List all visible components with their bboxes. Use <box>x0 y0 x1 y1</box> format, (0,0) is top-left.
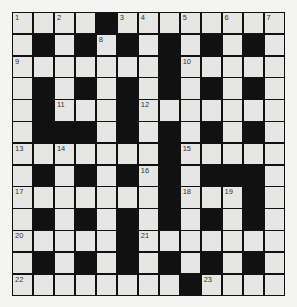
grid-cell[interactable] <box>97 275 116 295</box>
grid-cell[interactable] <box>97 231 116 251</box>
grid-cell[interactable] <box>139 253 158 273</box>
grid-cell[interactable] <box>34 231 53 251</box>
grid-cell[interactable] <box>97 57 116 77</box>
grid-cell[interactable] <box>244 13 263 33</box>
grid-cell[interactable] <box>181 78 200 98</box>
grid-cell[interactable]: 19 <box>223 187 242 207</box>
grid-cell[interactable] <box>202 144 221 164</box>
grid-cell[interactable] <box>34 57 53 77</box>
grid-cell[interactable] <box>160 13 179 33</box>
grid-cell[interactable] <box>223 57 242 77</box>
grid-cell[interactable] <box>13 78 32 98</box>
grid-cell[interactable] <box>55 275 74 295</box>
grid-cell[interactable] <box>265 231 284 251</box>
grid-cell[interactable]: 2 <box>55 13 74 33</box>
grid-cell[interactable] <box>265 166 284 186</box>
grid-cell[interactable] <box>223 253 242 273</box>
grid-cell[interactable] <box>76 13 95 33</box>
grid-cell[interactable] <box>76 187 95 207</box>
grid-cell[interactable] <box>265 78 284 98</box>
grid-cell[interactable] <box>265 209 284 229</box>
grid-cell[interactable]: 8 <box>97 35 116 55</box>
grid-cell[interactable] <box>13 100 32 120</box>
grid-cell[interactable] <box>160 100 179 120</box>
grid-cell[interactable] <box>13 253 32 273</box>
grid-cell[interactable] <box>244 275 263 295</box>
grid-cell[interactable] <box>223 275 242 295</box>
grid-cell[interactable] <box>265 275 284 295</box>
grid-cell[interactable] <box>139 209 158 229</box>
grid-cell[interactable] <box>223 35 242 55</box>
grid-cell[interactable] <box>244 144 263 164</box>
grid-cell[interactable] <box>55 253 74 273</box>
grid-cell[interactable] <box>223 78 242 98</box>
grid-cell[interactable] <box>160 231 179 251</box>
grid-cell[interactable] <box>118 187 137 207</box>
grid-cell[interactable]: 4 <box>139 13 158 33</box>
grid-cell[interactable] <box>97 253 116 273</box>
grid-cell[interactable]: 22 <box>13 275 32 295</box>
grid-cell[interactable] <box>34 144 53 164</box>
grid-cell[interactable] <box>97 209 116 229</box>
grid-cell[interactable] <box>223 144 242 164</box>
grid-cell[interactable] <box>181 100 200 120</box>
grid-cell[interactable]: 5 <box>181 13 200 33</box>
grid-cell[interactable] <box>265 187 284 207</box>
grid-cell[interactable] <box>55 187 74 207</box>
grid-cell[interactable]: 12 <box>139 100 158 120</box>
grid-cell[interactable] <box>265 253 284 273</box>
grid-cell[interactable] <box>118 57 137 77</box>
grid-cell[interactable]: 17 <box>13 187 32 207</box>
grid-cell[interactable] <box>265 57 284 77</box>
grid-cell[interactable] <box>55 78 74 98</box>
grid-cell[interactable]: 6 <box>223 13 242 33</box>
grid-cell[interactable] <box>139 78 158 98</box>
grid-cell[interactable] <box>139 35 158 55</box>
grid-cell[interactable] <box>34 275 53 295</box>
grid-cell[interactable] <box>118 275 137 295</box>
grid-cell[interactable] <box>118 144 137 164</box>
grid-cell[interactable]: 11 <box>55 100 74 120</box>
grid-cell[interactable]: 10 <box>181 57 200 77</box>
grid-cell[interactable] <box>13 35 32 55</box>
grid-cell[interactable]: 13 <box>13 144 32 164</box>
grid-cell[interactable] <box>139 122 158 142</box>
grid-cell[interactable]: 14 <box>55 144 74 164</box>
grid-cell[interactable] <box>223 231 242 251</box>
grid-cell[interactable] <box>76 275 95 295</box>
grid-cell[interactable]: 9 <box>13 57 32 77</box>
grid-cell[interactable] <box>202 13 221 33</box>
grid-cell[interactable] <box>55 166 74 186</box>
grid-cell[interactable] <box>76 57 95 77</box>
grid-cell[interactable]: 15 <box>181 144 200 164</box>
grid-cell[interactable] <box>76 100 95 120</box>
grid-cell[interactable] <box>139 187 158 207</box>
grid-cell[interactable] <box>244 100 263 120</box>
grid-cell[interactable] <box>223 100 242 120</box>
grid-cell[interactable] <box>244 231 263 251</box>
grid-cell[interactable]: 23 <box>202 275 221 295</box>
grid-cell[interactable] <box>223 122 242 142</box>
grid-cell[interactable] <box>97 166 116 186</box>
grid-cell[interactable] <box>13 122 32 142</box>
grid-cell[interactable] <box>181 253 200 273</box>
grid-cell[interactable] <box>202 231 221 251</box>
grid-cell[interactable] <box>181 35 200 55</box>
grid-cell[interactable] <box>139 57 158 77</box>
grid-cell[interactable] <box>181 231 200 251</box>
grid-cell[interactable] <box>13 166 32 186</box>
grid-cell[interactable] <box>97 187 116 207</box>
grid-cell[interactable] <box>160 275 179 295</box>
grid-cell[interactable] <box>76 231 95 251</box>
grid-cell[interactable]: 16 <box>139 166 158 186</box>
grid-cell[interactable] <box>223 209 242 229</box>
grid-cell[interactable]: 20 <box>13 231 32 251</box>
grid-cell[interactable] <box>181 209 200 229</box>
grid-cell[interactable] <box>34 13 53 33</box>
grid-cell[interactable] <box>265 100 284 120</box>
grid-cell[interactable] <box>265 144 284 164</box>
grid-cell[interactable] <box>55 231 74 251</box>
grid-cell[interactable] <box>265 122 284 142</box>
grid-cell[interactable] <box>202 57 221 77</box>
grid-cell[interactable]: 1 <box>13 13 32 33</box>
